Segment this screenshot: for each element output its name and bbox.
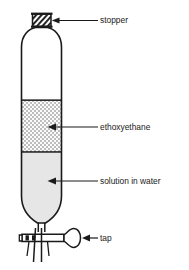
solution-in-water-layer <box>16 152 68 230</box>
outlet-tube <box>34 228 42 262</box>
stopper <box>31 13 53 28</box>
outlet-tube-flare <box>27 242 49 256</box>
tap-label: tap <box>100 233 112 243</box>
stopper-bottom-rim <box>31 26 53 28</box>
stopper-top-rim <box>31 13 53 15</box>
stopper-label: stopper <box>100 15 128 25</box>
ethoxyethane-layer <box>16 100 68 152</box>
stopper-arrowhead <box>52 17 60 23</box>
stopper-body <box>33 14 52 27</box>
ethoxyethane-label: ethoxyethane <box>100 122 151 132</box>
funnel-vessel <box>16 21 68 231</box>
stopcock-key-a <box>26 235 29 240</box>
separating-funnel-diagram: stopper ethoxyethane solution in water t… <box>0 0 189 270</box>
tap-handle <box>64 229 81 248</box>
tap-assembly <box>19 223 80 263</box>
stopcock-left-cap <box>19 235 22 241</box>
tap-arrowhead <box>82 235 90 242</box>
solution-in-water-label: solution in water <box>100 176 161 186</box>
